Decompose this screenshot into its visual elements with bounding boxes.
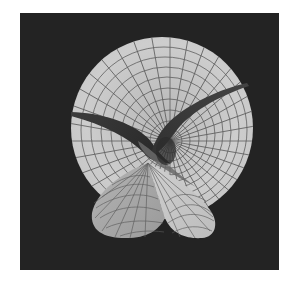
image-panel xyxy=(20,13,279,270)
surface-render xyxy=(20,13,279,270)
